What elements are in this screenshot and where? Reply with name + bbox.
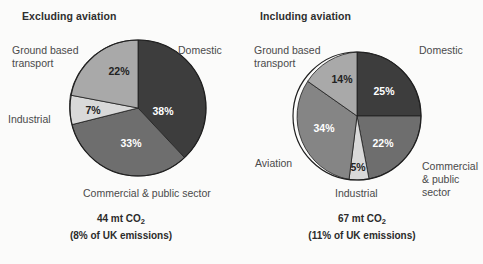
- pie-label-ground-transport-pct: 22%: [108, 65, 130, 77]
- label-ground-based-transport: Ground based transport: [12, 44, 79, 70]
- pie-panel-excluding-aviation: Excluding aviation 38% 33% 7% 22%: [0, 0, 242, 264]
- pie-chart-excluding-aviation: 38% 33% 7% 22%: [68, 38, 208, 178]
- caption-total-subscript: 2: [382, 217, 386, 226]
- pie-label-commercial-pct: 22%: [372, 137, 394, 149]
- label-commercial-public-sector: Commercial & public sector: [422, 160, 478, 199]
- caption-total-value: 67 mt CO: [338, 213, 382, 224]
- figure-canvas: Excluding aviation 38% 33% 7% 22%: [0, 0, 483, 264]
- caption-excluding-aviation: 44 mt CO2 (8% of UK emissions): [0, 212, 242, 243]
- pie-label-aviation-pct: 34%: [313, 122, 335, 134]
- panel-title-excluding-aviation: Excluding aviation: [22, 10, 117, 22]
- pie-label-commercial-pct: 33%: [120, 137, 142, 149]
- pie-label-industrial-pct: 7%: [85, 104, 101, 116]
- label-domestic: Domestic: [178, 44, 222, 57]
- panel-title-including-aviation: Including aviation: [260, 10, 351, 22]
- caption-including-aviation: 67 mt CO2 (11% of UK emissions): [241, 212, 483, 243]
- pie-panel-including-aviation: Including aviation 25% 22% 5% 34% 14%: [241, 0, 483, 264]
- label-industrial: Industrial: [335, 187, 378, 200]
- pie-label-domestic-pct: 25%: [373, 85, 395, 97]
- caption-total-subscript: 2: [141, 217, 145, 226]
- pie-svg-excluding-aviation: 38% 33% 7% 22%: [68, 38, 208, 178]
- pie-label-domestic-pct: 38%: [152, 105, 174, 117]
- label-domestic: Domestic: [419, 44, 463, 57]
- pie-label-industrial-pct: 5%: [350, 161, 366, 173]
- pie-slice-domestic: [357, 52, 421, 116]
- caption-share-value: (8% of UK emissions): [0, 229, 242, 243]
- caption-share-value: (11% of UK emissions): [241, 229, 483, 243]
- pie-label-ground-transport-pct: 14%: [331, 73, 353, 85]
- label-industrial: Industrial: [8, 113, 51, 126]
- label-ground-based-transport: Ground based transport: [254, 44, 321, 70]
- label-commercial-public-sector: Commercial & public sector: [83, 187, 211, 200]
- caption-total-value: 44 mt CO: [97, 213, 141, 224]
- label-aviation: Aviation: [255, 157, 292, 170]
